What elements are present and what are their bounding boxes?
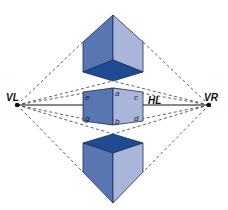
- left-face: [83, 143, 113, 203]
- label-hl: HL: [148, 95, 161, 106]
- vanishing-point-right: [207, 103, 211, 107]
- label-d: d: [134, 114, 139, 123]
- cube-above-horizon: [83, 15, 143, 81]
- label-g: g: [85, 114, 90, 123]
- label-vl: VL: [6, 92, 19, 103]
- label-vr: VR: [204, 92, 219, 103]
- label-b: b: [115, 117, 120, 126]
- label-c: c: [134, 93, 138, 102]
- label-a: a: [115, 89, 120, 98]
- right-face: [113, 143, 143, 203]
- perspective-diagram: VL VR HL a b c d e g: [0, 0, 228, 210]
- cube-below-horizon: [83, 134, 143, 203]
- label-e: e: [85, 93, 90, 102]
- vanishing-point-left: [15, 103, 19, 107]
